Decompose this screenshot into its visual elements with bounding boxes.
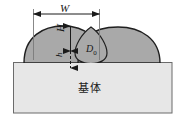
droplet-diameter-subscript: 0	[93, 49, 97, 57]
diagram-canvas	[0, 0, 187, 118]
droplet-diameter-label: D0	[86, 44, 97, 57]
substrate-label: 基体	[78, 83, 101, 94]
width-label: W	[60, 3, 69, 14]
small-height-label: h	[55, 53, 64, 58]
height-label: H	[55, 24, 66, 32]
droplet-deposition-diagram: W H h D0 基体	[0, 0, 187, 118]
